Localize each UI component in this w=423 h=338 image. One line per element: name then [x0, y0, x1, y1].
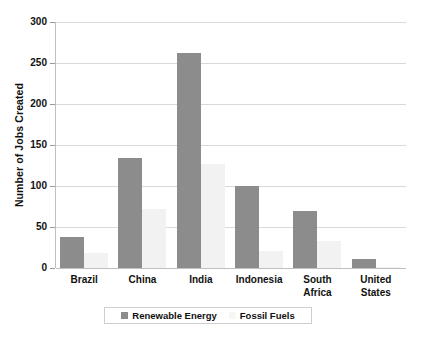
bar-renewable[interactable] [352, 259, 376, 268]
bar-group [230, 22, 288, 268]
bar-group [113, 22, 171, 268]
gridline [56, 268, 406, 269]
bar-fossil[interactable] [317, 241, 341, 268]
bar-fossil[interactable] [84, 253, 108, 268]
bar-renewable[interactable] [118, 158, 142, 268]
y-tick-label: 300 [0, 17, 47, 27]
chart-legend: Renewable EnergyFossil Fuels [104, 307, 312, 324]
legend-item[interactable]: Renewable Energy [121, 310, 216, 321]
legend-swatch-icon [229, 312, 236, 319]
y-tick-mark [50, 268, 55, 269]
y-tick-label: 250 [0, 58, 47, 68]
bar-renewable[interactable] [235, 186, 259, 268]
x-axis-label: Brazil [55, 272, 113, 306]
bar-fossil[interactable] [376, 267, 400, 268]
y-tick-label: 50 [0, 222, 47, 232]
y-tick-label: 0 [0, 263, 47, 273]
bar-group [55, 22, 113, 268]
y-tick-label: 100 [0, 181, 47, 191]
bar-group [347, 22, 405, 268]
y-tick-label: 200 [0, 99, 47, 109]
x-axis-labels: BrazilChinaIndiaIndonesiaSouth AfricaUni… [55, 272, 405, 306]
legend-item[interactable]: Fossil Fuels [229, 310, 295, 321]
bar-fossil[interactable] [259, 251, 283, 268]
y-tick-label: 150 [0, 140, 47, 150]
x-axis-label: Indonesia [230, 272, 288, 306]
bar-fossil[interactable] [201, 164, 225, 268]
bar-renewable[interactable] [60, 237, 84, 268]
legend-swatch-icon [121, 312, 128, 319]
x-axis-label: United States [347, 272, 405, 306]
legend-label: Renewable Energy [132, 310, 216, 321]
x-axis-label: South Africa [288, 272, 346, 306]
bar-fossil[interactable] [142, 209, 166, 268]
bar-renewable[interactable] [177, 53, 201, 268]
bar-group [288, 22, 346, 268]
x-axis-label: China [113, 272, 171, 306]
bar-groups [55, 22, 405, 268]
legend-label: Fossil Fuels [240, 310, 295, 321]
bar-renewable[interactable] [293, 211, 317, 268]
bar-chart: Number of Jobs Created 05010015020025030… [0, 0, 423, 338]
bar-group [172, 22, 230, 268]
x-axis-label: India [172, 272, 230, 306]
